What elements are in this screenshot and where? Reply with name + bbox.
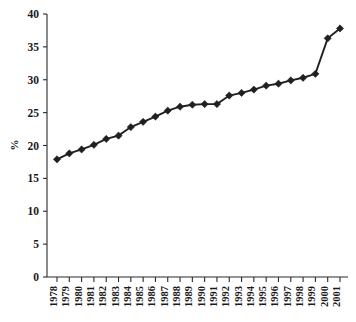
data-point-marker [90,141,97,148]
data-point-marker [299,74,306,81]
x-axis-tick-label: 2000 [319,286,330,307]
data-point-marker [66,150,73,157]
x-axis-tick-label: 1981 [85,286,96,307]
y-axis-tick-label: 30 [28,74,40,86]
x-axis-tick-label: 1993 [233,286,244,307]
data-point-marker [189,101,196,108]
x-axis-tick-label: 1999 [306,286,317,307]
y-axis-title: % [8,140,20,151]
x-axis-tick-label: 1979 [60,286,71,307]
y-axis-tick-label: 40 [28,8,40,20]
y-axis-tick-label: 10 [28,205,40,217]
data-point-marker [176,103,183,110]
data-point-marker [287,77,294,84]
x-axis-tick-label: 2001 [331,286,342,307]
data-point-marker [201,100,208,107]
x-axis-tick-label: 1991 [208,286,219,307]
y-axis-tick-label: 0 [33,271,39,283]
x-axis-tick-label: 1984 [122,285,133,307]
series-line-percent [57,28,340,159]
y-axis-tick-label: 25 [28,107,40,119]
x-axis-tick-label: 1997 [282,286,293,307]
data-point-marker [275,80,282,87]
x-axis-tick-label: 1983 [110,286,121,307]
data-point-marker [164,107,171,114]
x-axis-tick-label: 1982 [97,286,108,307]
x-axis-tick-label: 1978 [48,286,59,307]
x-axis-tick-label: 1990 [196,286,207,307]
x-axis-tick-label: 1986 [146,286,157,307]
data-point-marker [53,156,60,163]
data-point-marker [312,70,319,77]
x-axis-tick-label: 1989 [183,286,194,307]
data-point-marker [103,135,110,142]
data-point-marker [152,113,159,120]
x-axis-tick-label: 1987 [159,286,170,307]
y-axis-tick-label: 15 [28,172,40,184]
data-point-marker [140,118,147,125]
x-axis-tick-label: 1980 [73,286,84,307]
x-axis-tick-label: 1995 [257,286,268,307]
y-axis-tick-label: 5 [33,238,39,250]
data-point-marker [250,86,257,93]
x-axis-tick-label: 1992 [220,286,231,307]
y-axis-tick-label: 20 [28,140,40,152]
x-axis-tick-label: 1996 [269,286,280,307]
data-point-marker [263,82,270,89]
y-axis-tick-label: 35 [28,41,40,53]
chart-plot-area: 0510152025303540%19781979198019811982198… [0,0,356,322]
x-axis-tick-label: 1994 [245,285,256,307]
data-point-marker [238,89,245,96]
x-axis-tick-label: 1998 [294,286,305,307]
line-chart: 0510152025303540%19781979198019811982198… [0,0,356,322]
x-axis-tick-label: 1985 [134,286,145,307]
x-axis-tick-label: 1988 [171,286,182,307]
data-point-marker [78,146,85,153]
